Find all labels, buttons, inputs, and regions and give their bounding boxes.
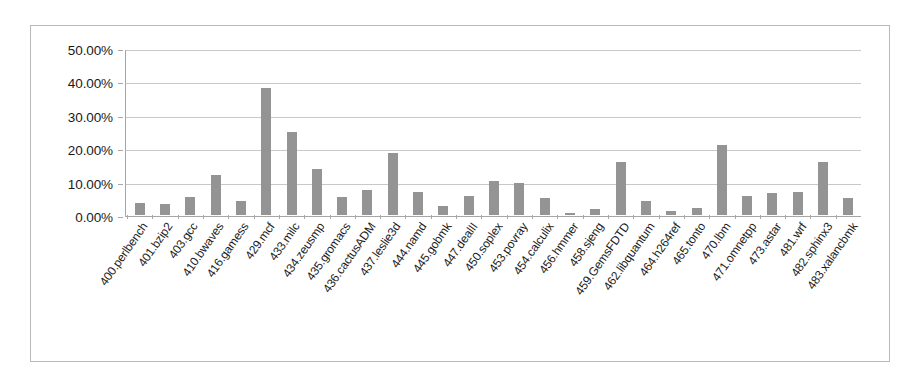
x-axis: 400.perlbench401.bzip2403.gcc410.bwaves4… xyxy=(126,218,862,358)
bar-slot xyxy=(304,50,329,215)
bar-slot xyxy=(178,50,203,215)
bar[interactable] xyxy=(767,193,777,215)
bar[interactable] xyxy=(362,190,372,215)
bar-slot xyxy=(152,50,177,215)
bar-slot xyxy=(456,50,481,215)
bar[interactable] xyxy=(464,196,474,215)
x-axis-label-slot: 400.perlbench xyxy=(126,218,151,358)
y-axis-tick xyxy=(118,150,123,151)
bar-slot xyxy=(810,50,835,215)
chart-frame: 50.00%40.00%30.00%20.00%10.00%0.00% 400.… xyxy=(30,25,890,362)
bar[interactable] xyxy=(160,204,170,215)
bar[interactable] xyxy=(616,162,626,215)
bar[interactable] xyxy=(261,88,271,215)
x-axis-label-slot: 437.leslie3d xyxy=(380,218,405,358)
x-axis-label-slot: 416.gamess xyxy=(228,218,253,358)
x-axis-label-slot: 450.soplex xyxy=(481,218,506,358)
bar-slot xyxy=(836,50,861,215)
bar[interactable] xyxy=(843,198,853,215)
bar[interactable] xyxy=(413,192,423,215)
y-axis-label: 40.00% xyxy=(68,76,113,91)
y-axis-tick xyxy=(118,184,123,185)
bar[interactable] xyxy=(236,201,246,215)
bar-slot xyxy=(735,50,760,215)
y-axis-tick xyxy=(118,117,123,118)
x-axis-label-slot: 465.tonto xyxy=(684,218,709,358)
x-axis-label-slot: 464.h264ref xyxy=(659,218,684,358)
bar[interactable] xyxy=(211,175,221,215)
x-axis-label-slot: 453.povray xyxy=(507,218,532,358)
x-axis-label-slot: 401.bzip2 xyxy=(151,218,176,358)
x-axis-label-slot: 433.milc xyxy=(278,218,303,358)
bar-slot xyxy=(355,50,380,215)
bar[interactable] xyxy=(590,209,600,215)
chart-page: 50.00%40.00%30.00%20.00%10.00%0.00% 400.… xyxy=(0,0,915,383)
bar-slot xyxy=(481,50,506,215)
bar-slot xyxy=(659,50,684,215)
bar-slot xyxy=(633,50,658,215)
bar-slot xyxy=(760,50,785,215)
bar[interactable] xyxy=(818,162,828,215)
bar-series xyxy=(127,50,861,215)
bar-slot xyxy=(203,50,228,215)
bar-slot xyxy=(709,50,734,215)
bar-slot xyxy=(127,50,152,215)
bar-slot xyxy=(405,50,430,215)
bar-slot xyxy=(785,50,810,215)
bar-slot xyxy=(507,50,532,215)
x-axis-label-slot: 444.namd xyxy=(405,218,430,358)
bar-slot xyxy=(684,50,709,215)
x-axis-label-slot: 471.omnetpp xyxy=(735,218,760,358)
y-axis-tick xyxy=(118,83,123,84)
bar[interactable] xyxy=(666,211,676,215)
bar-slot xyxy=(380,50,405,215)
bar[interactable] xyxy=(337,197,347,215)
x-axis-label-slot: 429.mcf xyxy=(253,218,278,358)
x-axis-label-slot: 445.gobmk xyxy=(431,218,456,358)
bar[interactable] xyxy=(793,192,803,215)
plot-area xyxy=(125,50,861,217)
bar[interactable] xyxy=(514,183,524,215)
bar[interactable] xyxy=(717,145,727,215)
x-axis-label-slot: 470.lbm xyxy=(710,218,735,358)
x-axis-label-slot: 454.calculix xyxy=(532,218,557,358)
y-axis-label: 10.00% xyxy=(68,176,113,191)
bar[interactable] xyxy=(692,208,702,215)
x-axis-label-slot: 473.astar xyxy=(760,218,785,358)
plot-wrap xyxy=(125,50,861,217)
bar[interactable] xyxy=(185,197,195,215)
y-axis-label: 30.00% xyxy=(68,109,113,124)
x-axis-label-slot: 410.bwaves xyxy=(202,218,227,358)
bar-slot xyxy=(583,50,608,215)
bar-slot xyxy=(532,50,557,215)
bar-slot xyxy=(254,50,279,215)
bar[interactable] xyxy=(388,153,398,215)
bar-slot xyxy=(330,50,355,215)
y-axis-label: 20.00% xyxy=(68,143,113,158)
y-axis-tick xyxy=(118,50,123,51)
bar[interactable] xyxy=(565,213,575,215)
x-axis-label-slot: 462.libquantum xyxy=(634,218,659,358)
bar[interactable] xyxy=(287,132,297,216)
bar-slot xyxy=(431,50,456,215)
bar-slot xyxy=(608,50,633,215)
bar[interactable] xyxy=(135,203,145,215)
y-axis-label: 50.00% xyxy=(68,43,113,58)
x-axis-label-slot: 447.dealII xyxy=(456,218,481,358)
bar[interactable] xyxy=(641,201,651,215)
bar[interactable] xyxy=(489,181,499,215)
y-axis-tick xyxy=(118,217,123,218)
x-axis-label-slot: 436.cactusADM xyxy=(354,218,379,358)
y-axis-label: 0.00% xyxy=(75,210,113,225)
bar-slot xyxy=(557,50,582,215)
bar[interactable] xyxy=(312,169,322,215)
bar[interactable] xyxy=(438,206,448,215)
x-axis-label-slot: 403.gcc xyxy=(177,218,202,358)
bar-slot xyxy=(279,50,304,215)
bar-slot xyxy=(228,50,253,215)
x-axis-label-slot: 481.wrf xyxy=(786,218,811,358)
bar[interactable] xyxy=(540,198,550,215)
bar[interactable] xyxy=(742,196,752,215)
y-axis: 50.00%40.00%30.00%20.00%10.00%0.00% xyxy=(31,50,123,217)
x-axis-label-slot: 483.xalancbmk xyxy=(837,218,862,358)
